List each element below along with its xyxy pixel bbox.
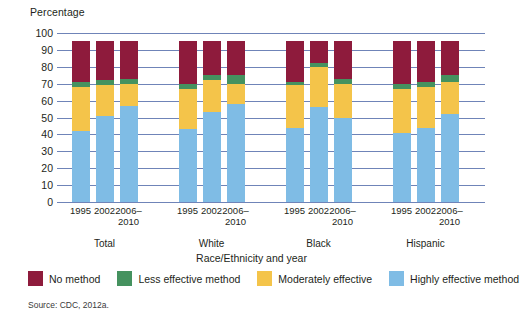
y-tick-label-50: 50 <box>21 112 53 123</box>
bar-segment-moderately-effective <box>120 84 138 106</box>
bar-total-1995[interactable] <box>72 33 90 202</box>
y-tick-label-60: 60 <box>21 95 53 106</box>
bar-total-2006-2010[interactable] <box>120 33 138 202</box>
bar-white-1995[interactable] <box>179 33 197 202</box>
bar-segment-less-effective-method <box>203 75 221 80</box>
group-label-black: Black <box>264 238 374 249</box>
legend-swatch-icon <box>117 271 132 286</box>
bar-segment-moderately-effective <box>441 82 459 114</box>
bar-segment-less-effective-method <box>96 80 114 85</box>
chart-legend: No methodLess effective methodModerately… <box>28 271 524 286</box>
bar-group-total <box>57 33 164 202</box>
bar-segment-moderately-effective <box>334 84 352 118</box>
bar-group-black <box>271 33 378 202</box>
legend-label: Highly effective method <box>410 273 519 285</box>
y-tick-label-100: 100 <box>21 28 53 39</box>
bar-black-2006-2010[interactable] <box>334 33 352 202</box>
bar-segment-highly-effective-method <box>310 107 328 202</box>
bar-segment-no-method <box>417 41 435 82</box>
bar-segment-moderately-effective <box>417 87 435 128</box>
bar-hispanic-2006-2010[interactable] <box>441 33 459 202</box>
bar-segment-less-effective-method <box>120 79 138 84</box>
bar-segment-no-method <box>227 41 245 75</box>
bar-segment-no-method <box>96 41 114 80</box>
bar-group-hispanic <box>378 33 485 202</box>
group-label-hispanic: Hispanic <box>371 238 481 249</box>
y-tick-label-20: 20 <box>21 163 53 174</box>
bar-group-white <box>164 33 271 202</box>
source-note: Source: CDC, 2012a. <box>28 300 109 310</box>
bar-segment-less-effective-method <box>310 63 328 66</box>
x-tick-label: 2006–2010 <box>214 205 258 227</box>
gridline-0 <box>57 202 485 203</box>
bar-segment-highly-effective-method <box>334 118 352 203</box>
legend-label: Moderately effective <box>278 273 372 285</box>
bar-segment-moderately-effective <box>203 80 221 112</box>
y-tick-label-40: 40 <box>21 129 53 140</box>
bar-segment-less-effective-method <box>441 75 459 82</box>
bar-hispanic-1995[interactable] <box>393 33 411 202</box>
bar-segment-no-method <box>72 41 90 82</box>
bar-segment-highly-effective-method <box>286 128 304 202</box>
bar-segment-moderately-effective <box>72 87 90 131</box>
bar-segment-less-effective-method <box>393 84 411 89</box>
bar-segment-no-method <box>179 41 197 83</box>
bar-segment-highly-effective-method <box>179 129 197 202</box>
y-tick-label-70: 70 <box>21 78 53 89</box>
bar-segment-no-method <box>441 41 459 75</box>
bar-groups <box>57 33 485 202</box>
x-axis-title: Race/Ethnicity and year <box>0 252 503 264</box>
bar-black-2002[interactable] <box>310 33 328 202</box>
plot-area: 0102030405060708090100 <box>57 33 485 202</box>
bar-segment-no-method <box>310 41 328 63</box>
bar-segment-less-effective-method <box>179 84 197 89</box>
bar-white-2006-2010[interactable] <box>227 33 245 202</box>
legend-label: No method <box>49 273 100 285</box>
bar-segment-moderately-effective <box>286 85 304 127</box>
group-label-total: Total <box>50 238 160 249</box>
bar-segment-highly-effective-method <box>227 104 245 202</box>
bar-segment-no-method <box>334 41 352 78</box>
bar-segment-no-method <box>393 41 411 83</box>
bar-segment-moderately-effective <box>227 84 245 104</box>
bar-segment-less-effective-method <box>334 79 352 84</box>
legend-item[interactable]: Moderately effective <box>257 271 372 286</box>
y-tick-label-80: 80 <box>21 62 53 73</box>
bar-segment-less-effective-method <box>286 82 304 85</box>
bar-segment-less-effective-method <box>417 82 435 87</box>
bar-segment-no-method <box>286 41 304 82</box>
bar-segment-highly-effective-method <box>72 131 90 202</box>
y-tick-label-30: 30 <box>21 146 53 157</box>
bar-segment-highly-effective-method <box>203 112 221 202</box>
bar-segment-less-effective-method <box>227 75 245 83</box>
legend-item[interactable]: No method <box>28 271 100 286</box>
legend-swatch-icon <box>28 271 43 286</box>
bar-segment-no-method <box>120 41 138 78</box>
bar-segment-moderately-effective <box>310 67 328 108</box>
legend-swatch-icon <box>257 271 272 286</box>
x-tick-label: 2006–2010 <box>428 205 472 227</box>
bar-segment-highly-effective-method <box>441 114 459 202</box>
x-tick-label: 2006–2010 <box>107 205 151 227</box>
legend-label: Less effective method <box>138 273 240 285</box>
bar-white-2002[interactable] <box>203 33 221 202</box>
legend-item[interactable]: Highly effective method <box>389 271 519 286</box>
y-tick-label-0: 0 <box>21 197 53 208</box>
group-label-white: White <box>157 238 267 249</box>
legend-swatch-icon <box>389 271 404 286</box>
bar-segment-moderately-effective <box>96 85 114 115</box>
y-tick-label-10: 10 <box>21 180 53 191</box>
bar-segment-highly-effective-method <box>417 128 435 202</box>
legend-item[interactable]: Less effective method <box>117 271 240 286</box>
y-axis-title: Percentage <box>30 6 85 18</box>
bar-segment-highly-effective-method <box>120 106 138 202</box>
bar-segment-highly-effective-method <box>96 116 114 202</box>
bar-segment-highly-effective-method <box>393 133 411 202</box>
bar-total-2002[interactable] <box>96 33 114 202</box>
bar-hispanic-2002[interactable] <box>417 33 435 202</box>
bar-segment-no-method <box>203 41 221 75</box>
bar-black-1995[interactable] <box>286 33 304 202</box>
bar-segment-less-effective-method <box>72 82 90 87</box>
bar-segment-moderately-effective <box>393 89 411 133</box>
